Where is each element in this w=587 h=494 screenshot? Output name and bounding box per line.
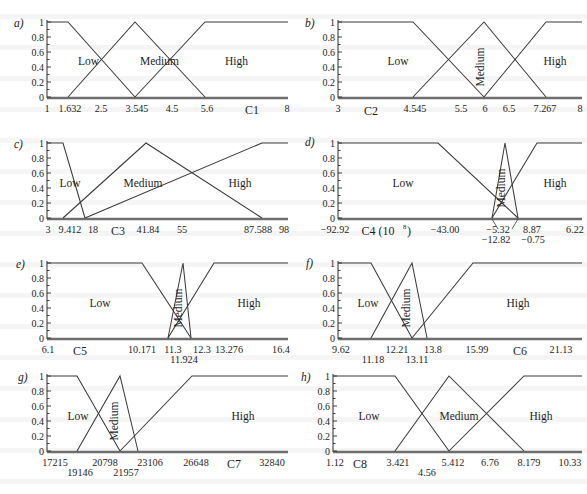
panel-e-ytick-02: 0.2: [32, 318, 45, 329]
panel-f-mf-high: [412, 263, 582, 338]
panel-e-x-label: C5: [73, 344, 87, 358]
panel-e-ytick-0: 0: [39, 333, 44, 344]
panel-d-xtick-2: −12.82: [482, 234, 511, 245]
panel-a-xtick-4: 4.5: [166, 103, 179, 114]
panel-b-c2: b) 1 0.8 0.6 0.4 0.2 0 Low Medium High 3: [293, 0, 587, 125]
panel-f-ytick-06: 0.6: [323, 288, 336, 299]
panel-f-mf-medium: [371, 263, 427, 338]
panel-a-xtick-5: 5.6: [201, 103, 214, 114]
panel-h-xtick-2: 4.56: [418, 467, 436, 478]
panel-g-letter: g): [18, 372, 28, 384]
panel-d-xtick-6: 6.22: [566, 224, 584, 235]
panel-h-ytick-02: 0.2: [318, 431, 331, 442]
panel-e-c5: e) 1 0.8 0.6 0.4 0.2 0 Low Medium High 6…: [0, 245, 293, 365]
panel-h-xtick-5: 8.179: [518, 457, 541, 468]
panel-e-xtick-5: 13.276: [215, 344, 243, 355]
panel-a-ytick-06: 0.6: [32, 47, 45, 58]
panel-c-x-label: C3: [111, 224, 125, 238]
panel-g-ytick-02: 0.2: [32, 431, 45, 442]
panel-f-xtick-0: 9.62: [332, 344, 350, 355]
panel-a-ytick-02: 0.2: [32, 77, 45, 88]
panel-b-letter: b): [305, 18, 315, 30]
panel-d-x-label-base: C4 (10: [362, 224, 395, 238]
panel-b-xtick-2: 5.5: [455, 103, 468, 114]
panel-c-c3: c) 1 0.8 0.6 0.4 0.2 0 Low Medium High 3: [0, 125, 293, 245]
panel-d-xtick-5: 8.87: [523, 224, 541, 235]
panel-c-xtick-1: 9.412: [59, 224, 82, 235]
panel-b-mf-low: [338, 22, 484, 97]
panel-e-term-medium: Medium: [172, 288, 184, 327]
panel-c-xtick-6: 98: [279, 224, 289, 235]
panel-g-mf-high: [120, 376, 288, 451]
panel-d-xtick-1: −43.00: [431, 224, 460, 235]
panel-g-c7: g) 1 0.8 0.6 0.4 0.2 0 Low Medium High 1…: [0, 365, 293, 494]
panel-f-xtick-1: 11.18: [362, 354, 385, 365]
panel-a-x-label: C1: [245, 103, 259, 117]
panel-b-xtick-4: 6.5: [503, 103, 516, 114]
panel-e-term-low: Low: [89, 297, 111, 309]
panel-b-term-medium: Medium: [474, 47, 486, 86]
panel-c-xtick-2: 18: [88, 224, 98, 235]
panel-d-term-medium: Medium: [495, 168, 507, 207]
panel-f-ytick-1: 1: [330, 258, 335, 269]
panel-f-ytick-08: 0.8: [323, 273, 336, 284]
panel-g-term-high: High: [232, 410, 255, 423]
panel-h-xtick-4: 6.76: [481, 457, 499, 468]
panel-a-y-ticks: [47, 22, 51, 97]
panel-a-term-high: High: [225, 55, 248, 68]
panel-c-xtick-3: 41.84: [137, 224, 160, 235]
panel-a-term-low: Low: [78, 55, 100, 67]
panel-g-xtick-6: 32840: [259, 457, 284, 468]
panel-b-ytick-06: 0.6: [323, 47, 336, 58]
panel-e-xtick-4: 12.3: [193, 344, 211, 355]
panel-a-xtick-0: 1: [44, 103, 49, 114]
panel-e-ytick-08: 0.8: [32, 273, 45, 284]
panel-b-xtick-0: 3: [335, 103, 340, 114]
panel-h-xtick-1: 3.421: [387, 457, 410, 468]
panel-a-ytick-04: 0.4: [32, 62, 45, 73]
panel-c-term-low: Low: [59, 177, 81, 189]
panel-h-term-high: High: [530, 410, 553, 423]
panel-d-ytick-04: 0.4: [323, 183, 336, 194]
panel-h-xtick-6: 10.33: [559, 457, 582, 468]
panel-h-term-low: Low: [358, 410, 380, 422]
panel-f-ytick-04: 0.4: [323, 303, 336, 314]
panel-a-ytick-08: 0.8: [32, 32, 45, 43]
panel-h-mf-low: [333, 376, 449, 451]
panel-b-ytick-02: 0.2: [323, 77, 336, 88]
panel-d-ytick-08: 0.8: [323, 153, 336, 164]
panel-c-mf-high: [85, 143, 288, 218]
panel-b-y-ticks: [338, 22, 342, 97]
panel-a-c1: a) 1 0.8 0.6 0.4 0.2 0 Low Medium: [0, 0, 293, 125]
panel-b-ytick-08: 0.8: [323, 32, 336, 43]
panel-f-term-medium: Medium: [400, 288, 412, 327]
panel-h-letter: h): [301, 372, 311, 384]
panel-g-xtick-1: 19146: [67, 467, 92, 478]
panel-c-term-high: High: [229, 177, 252, 190]
panel-c-letter: c): [14, 139, 23, 151]
panel-d-ytick-06: 0.6: [323, 168, 336, 179]
panel-h-term-medium: Medium: [440, 410, 479, 422]
panel-h-x-label: C8: [353, 457, 367, 471]
panel-a-letter: a): [14, 18, 24, 30]
panel-c-ytick-02: 0.2: [32, 198, 45, 209]
panel-b-term-low: Low: [387, 55, 409, 67]
panel-g-x-label: C7: [227, 457, 241, 471]
panel-b-ytick-0: 0: [330, 92, 335, 103]
panel-f-letter: f): [306, 258, 313, 270]
panel-h-xtick-3: 5.412: [442, 457, 465, 468]
panel-g-term-medium: Medium: [108, 401, 120, 440]
panel-g-y-ticks: [47, 376, 51, 451]
panel-f-ytick-0: 0: [330, 333, 335, 344]
panel-g-ytick-0: 0: [39, 446, 44, 457]
membership-function-panel-grid: a) 1 0.8 0.6 0.4 0.2 0 Low Medium: [0, 0, 587, 494]
panel-d-term-low: Low: [392, 177, 414, 189]
panel-b-xtick-6: 8: [577, 103, 582, 114]
panel-g-xtick-0: 17215: [42, 457, 67, 468]
panel-c-ytick-1: 1: [39, 138, 44, 149]
panel-a-xtick-1: 1.632: [59, 103, 82, 114]
panel-g-ytick-08: 0.8: [32, 386, 45, 397]
panel-e-y-ticks: [47, 263, 51, 338]
panel-g-ytick-06: 0.6: [32, 401, 45, 412]
panel-f-term-high: High: [507, 297, 530, 310]
